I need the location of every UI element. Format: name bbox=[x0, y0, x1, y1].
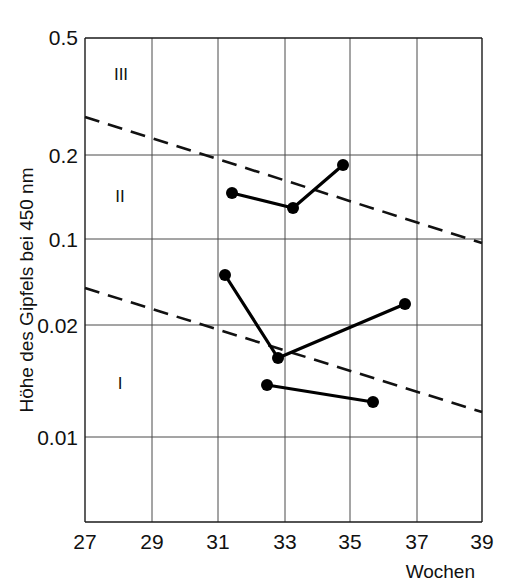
x-tick-label-27: 27 bbox=[73, 530, 96, 553]
data-point bbox=[261, 379, 273, 391]
zone-label-II: II bbox=[115, 187, 124, 206]
x-tick-label-35: 35 bbox=[338, 530, 361, 553]
x-axis-title: Wochen bbox=[406, 561, 475, 582]
y-tick-label-0p02: 0.02 bbox=[37, 314, 78, 337]
log-scatter-chart: III II I 0.5 0.2 0.1 0.02 0.01 27 29 31 … bbox=[0, 0, 508, 588]
x-tick-label-29: 29 bbox=[140, 530, 163, 553]
x-tick-label-39: 39 bbox=[470, 530, 493, 553]
y-tick-label-0p2: 0.2 bbox=[49, 144, 78, 167]
chart-background bbox=[0, 0, 508, 588]
y-tick-label-0p5: 0.5 bbox=[49, 26, 78, 49]
data-point bbox=[226, 187, 238, 199]
zone-label-I: I bbox=[118, 374, 123, 393]
zone-label-III: III bbox=[114, 65, 128, 84]
data-point bbox=[367, 396, 379, 408]
data-point bbox=[219, 269, 231, 281]
y-tick-label-0p1: 0.1 bbox=[49, 228, 78, 251]
data-point bbox=[287, 202, 299, 214]
data-point bbox=[399, 298, 411, 310]
data-point bbox=[272, 352, 284, 364]
y-axis-title: Höhe des Gipfels bei 450 nm bbox=[16, 167, 37, 412]
data-point bbox=[337, 159, 349, 171]
x-tick-label-37: 37 bbox=[405, 530, 428, 553]
y-tick-label-0p01: 0.01 bbox=[37, 426, 78, 449]
chart-figure: III II I 0.5 0.2 0.1 0.02 0.01 27 29 31 … bbox=[0, 0, 508, 588]
x-tick-label-33: 33 bbox=[273, 530, 296, 553]
x-tick-label-31: 31 bbox=[206, 530, 229, 553]
